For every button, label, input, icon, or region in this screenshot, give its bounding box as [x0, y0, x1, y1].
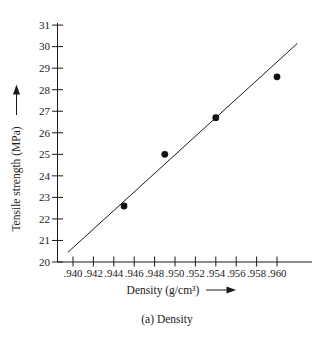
data-point — [161, 151, 168, 158]
x-axis-title-text: Density (g/cm³) — [127, 284, 200, 297]
x-tick-label: .942 — [84, 267, 103, 279]
y-tick-label: 28 — [39, 84, 51, 96]
x-tick-label: .960 — [268, 267, 287, 279]
y-tick-label: 30 — [39, 40, 51, 52]
x-tick-label: .940 — [64, 267, 83, 279]
up-arrow-icon — [13, 85, 20, 116]
y-tick-label: 22 — [39, 213, 50, 225]
x-tick-label: .950 — [166, 267, 185, 279]
data-points-group — [121, 73, 281, 209]
x-tick-label: .958 — [247, 267, 266, 279]
figure-caption: (a) Density — [141, 313, 193, 326]
x-tick-label: .954 — [206, 267, 225, 279]
chart-canvas: 202122232425262728293031.940.942.944.946… — [0, 0, 321, 337]
x-tick-label: .948 — [145, 267, 164, 279]
y-axis-title: Tensile strength (MPa) — [10, 85, 23, 232]
axis-ticks — [52, 25, 277, 266]
x-tick-label: .946 — [125, 267, 144, 279]
axes — [58, 23, 313, 262]
tick-labels: 202122232425262728293031.940.942.944.946… — [39, 19, 286, 279]
y-axis-title-text: Tensile strength (MPa) — [10, 126, 23, 231]
x-axis-title: Density (g/cm³) — [127, 284, 236, 297]
trend-line-group — [68, 43, 298, 252]
data-point — [121, 203, 128, 210]
right-arrow-icon — [206, 287, 236, 294]
x-tick-label: .956 — [227, 267, 246, 279]
scatter-figure: 202122232425262728293031.940.942.944.946… — [0, 0, 321, 337]
data-point — [212, 114, 219, 121]
x-tick-label: .952 — [186, 267, 205, 279]
y-tick-label: 21 — [39, 234, 50, 246]
y-tick-label: 27 — [39, 105, 51, 117]
y-tick-label: 23 — [39, 191, 51, 203]
trend-line — [68, 43, 298, 252]
y-tick-label: 24 — [39, 170, 51, 182]
y-tick-label: 25 — [39, 148, 51, 160]
y-tick-label: 20 — [39, 256, 51, 268]
data-point — [274, 73, 281, 80]
y-tick-label: 26 — [39, 127, 51, 139]
x-tick-label: .944 — [104, 267, 123, 279]
y-tick-label: 31 — [39, 19, 50, 31]
y-tick-label: 29 — [39, 62, 51, 74]
